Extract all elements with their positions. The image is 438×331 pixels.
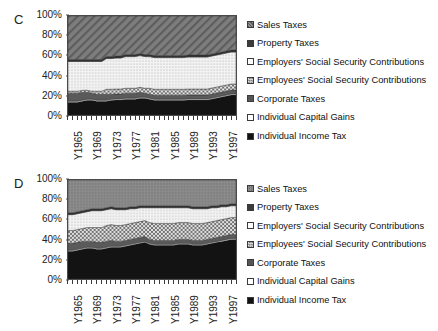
legend-item[interactable]: Employers' Social Security Contributions <box>247 53 437 70</box>
y-tick-label: 20% <box>42 91 62 101</box>
legend-c: Sales TaxesProperty TaxesEmployers' Soci… <box>247 16 437 146</box>
plot-area-c <box>67 15 237 116</box>
legend-item[interactable]: Individual Income Tax <box>247 292 437 309</box>
y-tick-label: 100% <box>36 174 62 184</box>
x-tick-mark <box>207 280 208 284</box>
x-axis-label: Y1965 <box>74 295 84 324</box>
x-tick-mark <box>217 116 218 120</box>
x-axis-label: Y1981 <box>151 131 161 160</box>
legend-item[interactable]: Corporate Taxes <box>247 254 437 271</box>
legend-item-label: Individual Capital Gains <box>257 112 355 122</box>
x-tick-marks-c <box>67 116 237 121</box>
x-tick-mark <box>115 116 116 120</box>
x-axis-label: Y1969 <box>93 131 103 160</box>
x-tick-mark <box>144 280 145 284</box>
x-tick-mark <box>207 116 208 120</box>
x-tick-mark <box>168 280 169 284</box>
legend-item[interactable]: Individual Capital Gains <box>247 109 437 126</box>
legend-item-label: Sales Taxes <box>257 184 307 194</box>
x-tick-mark <box>226 280 227 284</box>
x-tick-mark <box>183 280 184 284</box>
legend-swatch-icon <box>247 297 254 304</box>
y-tick-label: 60% <box>42 214 62 224</box>
y-tick-label: 60% <box>42 50 62 60</box>
x-tick-mark <box>67 116 68 120</box>
panel-letter-d: D <box>14 176 23 191</box>
legend-item-label: Corporate Taxes <box>257 258 325 268</box>
legend-swatch-icon <box>247 95 254 102</box>
x-tick-mark <box>139 116 140 120</box>
x-tick-mark <box>154 280 155 284</box>
x-tick-mark <box>81 116 82 120</box>
x-axis-label: Y1997 <box>229 131 239 160</box>
legend-item-label: Employees' Social Security Contributions <box>257 75 426 85</box>
legend-item[interactable]: Individual Income Tax <box>247 128 437 145</box>
x-axis-label: Y1985 <box>171 131 181 160</box>
x-axis-label: Y1969 <box>93 295 103 324</box>
legend-item[interactable]: Property Taxes <box>247 35 437 52</box>
legend-swatch-icon <box>247 185 254 192</box>
y-tick-label: 0% <box>48 275 62 285</box>
stacked-area-svg-c <box>68 16 236 115</box>
legend-item[interactable]: Property Taxes <box>247 199 437 216</box>
x-tick-mark <box>115 280 116 284</box>
x-axis-label: Y1977 <box>132 131 142 160</box>
x-axis-label: Y1985 <box>171 295 181 324</box>
y-axis-d: 100%80%60%40%20%0% <box>24 179 64 279</box>
legend-item-label: Individual Capital Gains <box>257 276 355 286</box>
x-tick-mark <box>120 280 121 284</box>
chart-panel-c: C 100%80%60%40%20%0% Y196 <box>0 4 438 164</box>
x-axis-label: Y1973 <box>113 131 123 160</box>
legend-d: Sales TaxesProperty TaxesEmployers' Soci… <box>247 180 437 310</box>
x-tick-mark <box>173 280 174 284</box>
x-tick-marks-d <box>67 280 237 285</box>
y-tick-label: 80% <box>42 30 62 40</box>
y-tick-label: 0% <box>48 111 62 121</box>
x-axis-label: Y1997 <box>229 295 239 324</box>
legend-item[interactable]: Sales Taxes <box>247 16 437 33</box>
x-tick-mark <box>106 116 107 120</box>
x-tick-mark <box>193 116 194 120</box>
x-tick-mark <box>173 116 174 120</box>
x-tick-mark <box>135 280 136 284</box>
x-tick-mark <box>149 116 150 120</box>
x-tick-mark <box>120 116 121 120</box>
panel-letter-c: C <box>14 12 23 27</box>
x-tick-mark <box>236 280 237 284</box>
legend-swatch-icon <box>247 278 254 285</box>
x-tick-mark <box>144 116 145 120</box>
x-tick-mark <box>193 280 194 284</box>
x-axis-labels-c: Y1965Y1969Y1973Y1977Y1981Y1985Y1989Y1993… <box>67 122 237 162</box>
legend-item[interactable]: Sales Taxes <box>247 180 437 197</box>
area-series-sales-taxes <box>68 16 236 60</box>
legend-item[interactable]: Individual Capital Gains <box>247 273 437 290</box>
x-tick-mark <box>159 116 160 120</box>
x-tick-mark <box>231 280 232 284</box>
x-tick-mark <box>188 116 189 120</box>
legend-swatch-icon <box>247 204 254 211</box>
x-tick-mark <box>72 116 73 120</box>
x-tick-mark <box>77 116 78 120</box>
y-tick-label: 40% <box>42 235 62 245</box>
x-tick-mark <box>101 280 102 284</box>
legend-item[interactable]: Employers' Social Security Contributions <box>247 217 437 234</box>
x-tick-mark <box>130 280 131 284</box>
x-axis-label: Y1977 <box>132 295 142 324</box>
legend-swatch-icon <box>247 114 254 121</box>
legend-item[interactable]: Employees' Social Security Contributions <box>247 236 437 253</box>
stacked-area-svg-d <box>68 180 236 279</box>
legend-swatch-icon <box>247 133 254 140</box>
x-tick-mark <box>110 116 111 120</box>
x-tick-mark <box>197 116 198 120</box>
x-tick-mark <box>125 280 126 284</box>
legend-item-label: Individual Income Tax <box>257 295 346 305</box>
x-tick-mark <box>236 116 237 120</box>
x-axis-label: Y1973 <box>113 295 123 324</box>
legend-item[interactable]: Employees' Social Security Contributions <box>247 72 437 89</box>
x-tick-mark <box>202 116 203 120</box>
x-tick-mark <box>101 116 102 120</box>
legend-item-label: Employers' Social Security Contributions <box>257 57 424 67</box>
x-tick-mark <box>183 116 184 120</box>
x-tick-mark <box>67 280 68 284</box>
legend-item[interactable]: Corporate Taxes <box>247 90 437 107</box>
